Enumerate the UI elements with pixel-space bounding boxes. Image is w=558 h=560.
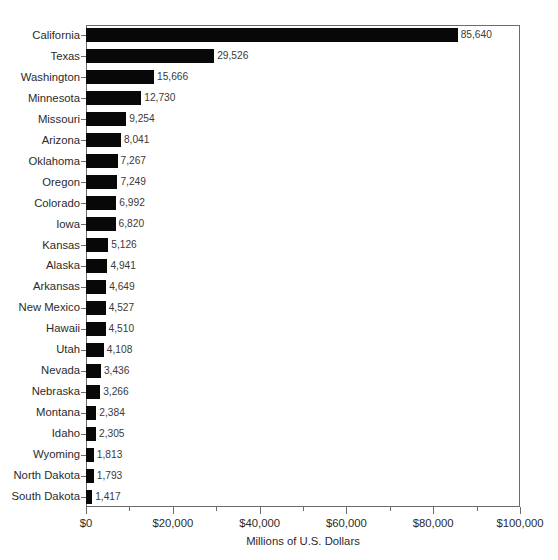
x-axis-tick-minor xyxy=(477,507,478,511)
bar-value-label: 8,041 xyxy=(124,134,150,146)
table-row: Colorado6,992 xyxy=(0,193,558,214)
bar xyxy=(86,427,96,441)
category-label: Utah xyxy=(0,343,80,356)
bar-value-label: 3,436 xyxy=(104,365,130,377)
category-label: New Mexico xyxy=(0,301,80,314)
bar xyxy=(86,175,117,189)
table-row: Utah4,108 xyxy=(0,339,558,360)
x-axis-tick-minor xyxy=(216,507,217,511)
table-row: Washington15,666 xyxy=(0,67,558,88)
x-axis-tick-major xyxy=(346,507,347,514)
bar-value-label: 4,108 xyxy=(107,344,133,356)
bar xyxy=(86,154,118,168)
category-label: Nevada xyxy=(0,364,80,377)
x-axis: Millions of U.S. Dollars $0$20,000$40,00… xyxy=(86,507,520,559)
bar xyxy=(86,343,104,357)
table-row: Kansas5,126 xyxy=(0,235,558,256)
bar xyxy=(86,196,116,210)
bar-value-label: 5,126 xyxy=(111,239,137,251)
category-label: Washington xyxy=(0,71,80,84)
table-row: Alaska4,941 xyxy=(0,256,558,277)
bar xyxy=(86,490,92,504)
table-row: Minnesota12,730 xyxy=(0,88,558,109)
table-row: Missouri9,254 xyxy=(0,109,558,130)
category-label: Kansas xyxy=(0,239,80,252)
x-axis-tick-label: $20,000 xyxy=(152,516,193,530)
x-axis-tick-label: $100,000 xyxy=(496,516,543,530)
bar-value-label: 7,249 xyxy=(120,176,146,188)
table-row: Idaho2,305 xyxy=(0,423,558,444)
table-row: Arizona8,041 xyxy=(0,130,558,151)
table-row: Texas29,526 xyxy=(0,46,558,67)
bar-value-label: 1,813 xyxy=(97,449,123,461)
category-label: Arizona xyxy=(0,134,80,147)
table-row: California85,640 xyxy=(0,25,558,46)
bar xyxy=(86,301,106,315)
bar-value-label: 2,384 xyxy=(99,407,125,419)
category-label: Hawaii xyxy=(0,322,80,335)
x-axis-tick-major xyxy=(433,507,434,514)
bar-value-label: 6,820 xyxy=(119,218,145,230)
category-label: Nebraska xyxy=(0,385,80,398)
table-row: Oregon7,249 xyxy=(0,172,558,193)
x-axis-tick-label: $40,000 xyxy=(239,516,280,530)
bar xyxy=(86,49,214,63)
bar-value-label: 9,254 xyxy=(129,113,155,125)
bar-value-label: 7,267 xyxy=(121,155,147,167)
bar-value-label: 4,649 xyxy=(109,281,135,293)
category-label: Alaska xyxy=(0,259,80,272)
bar-value-label: 4,527 xyxy=(109,302,135,314)
bar-value-label: 1,417 xyxy=(95,491,121,503)
category-label: Minnesota xyxy=(0,92,80,105)
bar-value-label: 15,666 xyxy=(157,71,188,83)
category-label: California xyxy=(0,29,80,42)
bar-value-label: 2,305 xyxy=(99,428,125,440)
bar xyxy=(86,133,121,147)
bar xyxy=(86,406,96,420)
x-axis-tick-major xyxy=(173,507,174,514)
table-row: Arkansas4,649 xyxy=(0,276,558,297)
bar-value-label: 6,992 xyxy=(119,197,145,209)
table-row: Wyoming1,813 xyxy=(0,444,558,465)
x-axis-tick-minor xyxy=(303,507,304,511)
category-label: Oregon xyxy=(0,176,80,189)
category-label: North Dakota xyxy=(0,469,80,482)
bar xyxy=(86,364,101,378)
category-label: Montana xyxy=(0,406,80,419)
table-row: Nebraska3,266 xyxy=(0,381,558,402)
bar-value-label: 85,640 xyxy=(461,29,492,41)
table-row: Montana2,384 xyxy=(0,402,558,423)
bar-chart: California85,640Texas29,526Washington15,… xyxy=(0,0,558,560)
bar xyxy=(86,385,100,399)
category-label: Arkansas xyxy=(0,280,80,293)
bar xyxy=(86,217,116,231)
x-axis-tick-minor xyxy=(390,507,391,511)
bar xyxy=(86,280,106,294)
table-row: New Mexico4,527 xyxy=(0,297,558,318)
bar-value-label: 3,266 xyxy=(103,386,129,398)
category-label: Oklahoma xyxy=(0,155,80,168)
bar xyxy=(86,112,126,126)
table-row: Nevada3,436 xyxy=(0,360,558,381)
table-row: South Dakota1,417 xyxy=(0,486,558,507)
category-label: Iowa xyxy=(0,218,80,231)
table-row: Hawaii4,510 xyxy=(0,318,558,339)
table-row: Iowa6,820 xyxy=(0,214,558,235)
bar-value-label: 4,510 xyxy=(109,323,135,335)
bar-value-label: 1,793 xyxy=(97,470,123,482)
category-label: Missouri xyxy=(0,113,80,126)
category-label: Wyoming xyxy=(0,448,80,461)
bar xyxy=(86,238,108,252)
x-axis-title: Millions of U.S. Dollars xyxy=(86,534,520,548)
category-label: Texas xyxy=(0,50,80,63)
x-axis-tick-major xyxy=(86,507,87,514)
table-row: North Dakota1,793 xyxy=(0,465,558,486)
bar xyxy=(86,70,154,84)
bar xyxy=(86,259,107,273)
category-label: Colorado xyxy=(0,197,80,210)
category-label: South Dakota xyxy=(0,490,80,503)
bar xyxy=(86,322,106,336)
x-axis-tick-major xyxy=(260,507,261,514)
bar xyxy=(86,28,458,42)
x-axis-tick-label: $0 xyxy=(80,516,93,530)
